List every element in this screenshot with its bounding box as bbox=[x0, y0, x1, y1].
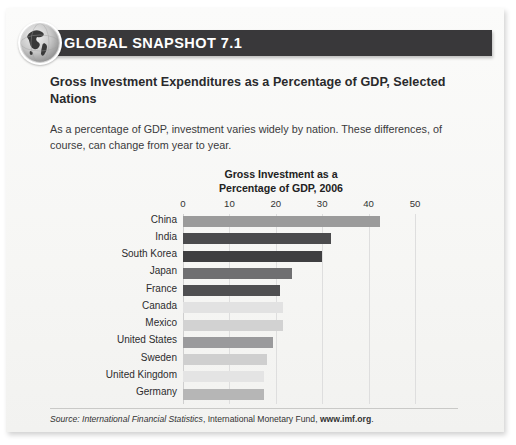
bar-china bbox=[183, 216, 380, 227]
source-url: www.imf.org bbox=[320, 414, 371, 424]
x-tick-label-10: 10 bbox=[224, 198, 235, 209]
category-label-france: France bbox=[146, 283, 177, 294]
source-middle: , International Monetary Fund, bbox=[203, 414, 320, 424]
category-label-china: China bbox=[151, 214, 177, 225]
source-publication: International Financial Statistics bbox=[82, 414, 203, 424]
bar-mexico bbox=[183, 320, 283, 331]
bar-row: China bbox=[183, 216, 415, 227]
bar-germany bbox=[183, 389, 264, 400]
globe-icon bbox=[18, 21, 62, 65]
bar-row: South Korea bbox=[183, 251, 415, 262]
chart: Gross Investment as a Percentage of GDP,… bbox=[6, 168, 504, 408]
category-label-united-states: United States bbox=[117, 334, 177, 345]
gridline-50 bbox=[415, 214, 416, 404]
plot-area: 01020304050 ChinaIndiaSouth KoreaJapanFr… bbox=[183, 214, 415, 404]
category-label-united-kingdom: United Kingdom bbox=[106, 369, 177, 380]
source-divider bbox=[50, 408, 458, 409]
bar-india bbox=[183, 233, 331, 244]
x-tick-label-40: 40 bbox=[363, 198, 374, 209]
chart-title-line-1: Gross Investment as a bbox=[224, 168, 337, 180]
bar-row: India bbox=[183, 233, 415, 244]
header-title: GLOBAL SNAPSHOT 7.1 bbox=[64, 35, 242, 51]
bar-row: United States bbox=[183, 337, 415, 348]
x-tick-label-0: 0 bbox=[180, 198, 185, 209]
x-tick-label-30: 30 bbox=[317, 198, 328, 209]
bar-row: Japan bbox=[183, 268, 415, 279]
bar-row: Mexico bbox=[183, 320, 415, 331]
x-tick-label-20: 20 bbox=[270, 198, 281, 209]
bar-south-korea bbox=[183, 251, 322, 262]
bar-united-kingdom bbox=[183, 371, 264, 382]
category-label-japan: Japan bbox=[150, 265, 177, 276]
bar-japan bbox=[183, 268, 292, 279]
figure-panel: GLOBAL SNAPSHOT 7.1 Gross Investment Exp… bbox=[6, 8, 504, 432]
source-suffix: . bbox=[371, 414, 373, 424]
bar-row: Canada bbox=[183, 302, 415, 313]
snapshot-figure: GLOBAL SNAPSHOT 7.1 Gross Investment Exp… bbox=[0, 0, 516, 445]
category-label-sweden: Sweden bbox=[141, 352, 177, 363]
source-prefix: Source: bbox=[50, 414, 82, 424]
box-description: As a percentage of GDP, investment varie… bbox=[50, 122, 480, 153]
category-label-india: India bbox=[155, 231, 177, 242]
bar-france bbox=[183, 285, 280, 296]
x-tick-label-50: 50 bbox=[410, 198, 421, 209]
bar-rows: ChinaIndiaSouth KoreaJapanFranceCanadaMe… bbox=[183, 214, 415, 404]
bar-united-states bbox=[183, 337, 273, 348]
bar-row: Germany bbox=[183, 389, 415, 400]
chart-title: Gross Investment as a Percentage of GDP,… bbox=[156, 168, 406, 195]
category-label-germany: Germany bbox=[136, 386, 177, 397]
bar-sweden bbox=[183, 354, 267, 365]
bar-row: France bbox=[183, 285, 415, 296]
category-label-mexico: Mexico bbox=[145, 317, 177, 328]
bar-row: Sweden bbox=[183, 354, 415, 365]
source-note: Source: International Financial Statisti… bbox=[50, 414, 374, 424]
category-label-canada: Canada bbox=[142, 300, 177, 311]
category-label-south-korea: South Korea bbox=[121, 248, 177, 259]
bar-canada bbox=[183, 302, 283, 313]
bar-row: United Kingdom bbox=[183, 371, 415, 382]
chart-title-line-2: Percentage of GDP, 2006 bbox=[219, 182, 343, 194]
box-title: Gross Investment Expenditures as a Perce… bbox=[50, 74, 470, 108]
